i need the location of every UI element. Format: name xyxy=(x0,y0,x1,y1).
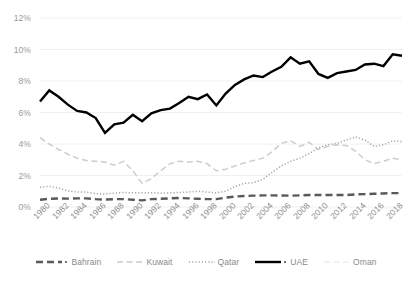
bahrain-swatch xyxy=(36,257,62,267)
legend-marker-dot xyxy=(65,261,67,263)
legend-label: Bahrain xyxy=(71,257,101,267)
kuwait-swatch xyxy=(117,257,143,267)
y-axis-tick-label: 10% xyxy=(5,45,31,55)
legend-label: UAE xyxy=(290,257,308,267)
series-line-uae xyxy=(40,54,402,133)
uae-swatch xyxy=(255,257,281,267)
gridlines xyxy=(40,18,402,207)
plot-area xyxy=(0,0,413,281)
legend-item-kuwait[interactable]: Kuwait xyxy=(117,257,172,267)
series-line-bahrain xyxy=(40,193,402,200)
y-axis-tick-label: 2% xyxy=(5,171,31,181)
y-axis-tick-label: 0% xyxy=(5,202,31,212)
oman-swatch xyxy=(324,257,350,267)
legend-marker-dot xyxy=(284,261,286,263)
y-axis-tick-label: 4% xyxy=(5,139,31,149)
series-line-kuwait xyxy=(40,138,402,184)
y-axis-tick-label: 8% xyxy=(5,76,31,86)
y-axis-tick-label: 6% xyxy=(5,108,31,118)
legend-label: Qatar xyxy=(218,257,240,267)
legend-item-uae[interactable]: UAE xyxy=(255,257,308,267)
legend-item-bahrain[interactable]: Bahrain xyxy=(36,257,101,267)
legend-item-qatar[interactable]: Qatar xyxy=(189,257,240,267)
legend-item-oman[interactable]: Oman xyxy=(324,257,377,267)
series-line-qatar xyxy=(40,137,402,194)
legend-label: Oman xyxy=(353,257,377,267)
y-axis-tick-label: 12% xyxy=(5,13,31,23)
series-lines xyxy=(40,54,402,200)
legend-label: Kuwait xyxy=(146,257,172,267)
qatar-swatch xyxy=(189,257,215,267)
chart-legend: BahrainKuwaitQatarUAEOman xyxy=(0,252,413,272)
line-chart: 0%2%4%6%8%10%12% 19801982198419861988199… xyxy=(0,0,413,281)
